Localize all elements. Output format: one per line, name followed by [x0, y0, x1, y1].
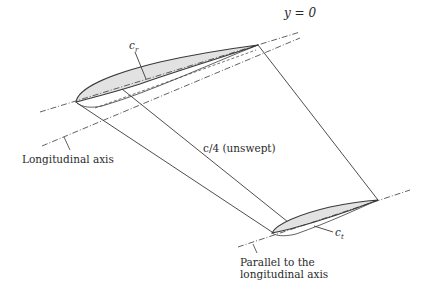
tip-parallel-axis [238, 190, 410, 247]
tip-chord-label: ct [335, 227, 344, 243]
leading-edge-line [77, 103, 272, 232]
tip-chord-subscript: t [341, 233, 344, 241]
trailing-edge-line [258, 45, 378, 200]
quarter-chord-line [122, 89, 293, 226]
y-equals-zero-label: y = 0 [284, 8, 316, 19]
parallel-axis-label-line1: Parallel to the [240, 257, 315, 268]
tip-airfoil [272, 200, 378, 233]
longitudinal-axis-line [42, 38, 300, 146]
longitudinal-axis-label: Longitudinal axis [22, 154, 114, 165]
wing-diagram: y = 0 cr c/4 (unswept) Longitudinal axis… [0, 0, 427, 297]
root-chord-subscript: r [135, 46, 138, 54]
quarter-chord-label: c/4 (unswept) [203, 143, 276, 154]
root-chord-label: cr [129, 40, 138, 56]
parallel-axis-label-line2: longitudinal axis [240, 269, 328, 280]
